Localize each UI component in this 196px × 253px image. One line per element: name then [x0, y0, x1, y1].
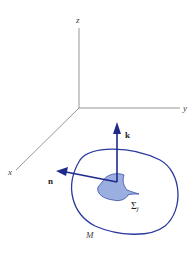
surface-label: Σj: [131, 200, 139, 213]
region-label: M: [85, 230, 94, 240]
x-axis: [16, 108, 79, 170]
surface-patch: [98, 174, 139, 201]
k-arrowhead: [113, 122, 121, 134]
n-arrowhead: [56, 167, 68, 176]
y-axis-label: y: [182, 103, 187, 113]
surface-diagram: z y x k n Σj M: [0, 0, 196, 253]
k-vector-label: k: [125, 130, 130, 140]
n-vector-label: n: [48, 176, 53, 186]
x-axis-label: x: [7, 167, 12, 177]
z-axis-label: z: [75, 15, 80, 25]
